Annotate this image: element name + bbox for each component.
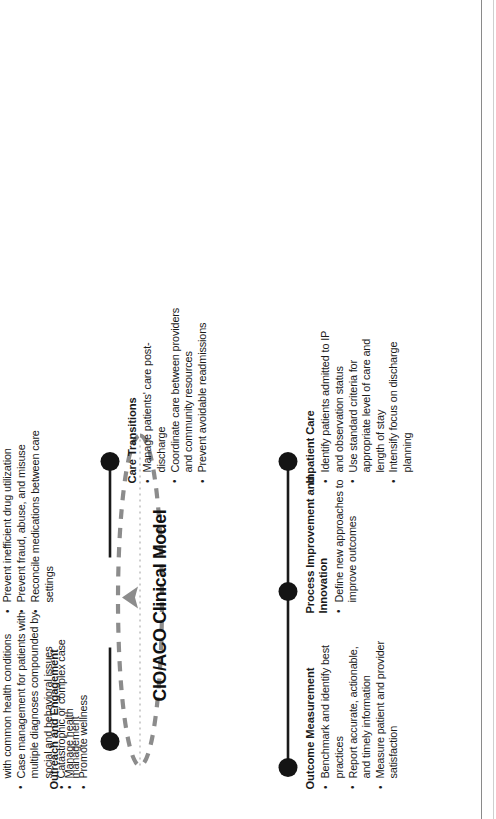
list-item: Disease management for patients with com… (0, 599, 14, 789)
diagram-page: CIO/ACO Clinical Model Outcome Measureme… (0, 0, 496, 819)
block-title: Outcome Measurement (304, 629, 317, 789)
list-item: Reconcile medications between care setti… (29, 413, 56, 613)
list-item: Prevent avoidable readmissions (196, 297, 209, 483)
node-dot-inpatient-care (279, 452, 298, 471)
flow-arrow-icon (122, 586, 138, 608)
list-item: Manage patients' care post-discharge (141, 297, 168, 483)
block-item-list: Disease management for patients with com… (0, 599, 82, 789)
list-item: Coordinate care between providers and co… (169, 297, 196, 483)
diagram-canvas: CIO/ACO Clinical Model Outcome Measureme… (0, 0, 496, 819)
block-item-list: Define new approaches to improve outcome… (333, 467, 360, 613)
block-pharmacy-management: Pharmacy Management Ensure appropriate u… (0, 413, 56, 613)
list-item: Intensify focus on discharge planning (387, 323, 414, 483)
list-item: Prevent inefficient drug utilization (1, 413, 14, 613)
block-item-list: Ensure appropriate use of drugs Prevent … (0, 413, 56, 613)
block-outcome-measurement: Outcome Measurement Benchmark and identi… (304, 629, 401, 789)
list-item: Benchmark and identify best practices (319, 629, 346, 789)
block-title: Process Improvement and Innovation (304, 467, 331, 613)
block-title: Inpatient Care (304, 323, 317, 483)
list-item: Use standard criteria for appropriate le… (347, 323, 387, 483)
block-care-transitions: Care Transitions Manage patients' care p… (126, 297, 210, 483)
list-item: Measure patient and provider satisfactio… (374, 629, 401, 789)
node-dot-care-transitions (101, 452, 120, 471)
node-dot-process-improvement (279, 582, 298, 601)
node-dot-outcome-measurement (279, 758, 298, 777)
block-process-improvement-and-innovation: Process Improvement and Innovation Defin… (304, 467, 360, 613)
list-item: Catastrophic or complex case management (55, 599, 82, 789)
list-item: Identify patients admitted to IP and obs… (319, 323, 346, 483)
block-item-list: Manage patients' care post-discharge Coo… (141, 297, 209, 483)
list-item: Prevent fraud, abuse, and misuse (15, 413, 28, 613)
block-item-list: Identify patients admitted to IP and obs… (319, 323, 414, 483)
center-title: CIO/ACO Clinical Model (150, 509, 171, 701)
block-inpatient-care: Inpatient Care Identify patients admitte… (304, 323, 415, 483)
list-item: Define new approaches to improve outcome… (333, 467, 360, 613)
block-chronic-disease-management: Chronic Disease Management Disease manag… (0, 599, 83, 789)
block-item-list: Benchmark and identify best practices Re… (319, 629, 400, 789)
list-item: Case management for patients with multip… (15, 599, 55, 789)
list-item: Report accurate, actionable, and timely … (347, 629, 374, 789)
node-dot-outreach-engagement (101, 732, 120, 751)
block-title: Care Transitions (126, 297, 139, 483)
